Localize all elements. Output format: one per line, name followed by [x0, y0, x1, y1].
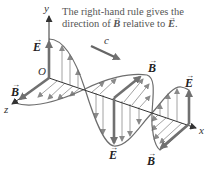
b-label-right: →B — [147, 155, 155, 167]
origin-label: O — [38, 66, 46, 77]
x-axis-label: x — [199, 125, 204, 136]
caption-line-1: The right-hand rule gives the — [62, 6, 210, 18]
z-axis-label: z — [4, 104, 8, 115]
b-field-arrows-third — [152, 115, 182, 143]
e-label-left: →E — [33, 41, 41, 53]
caption-line-2: direction of →B relative to →E. — [62, 18, 210, 30]
e-field-arrows-first — [62, 46, 78, 87]
right-hand-rule-caption: The right-hand rule gives the direction … — [62, 6, 210, 30]
b-vector-thick-left — [20, 78, 49, 99]
b-vector-thick-right — [161, 124, 189, 148]
x-axis — [49, 78, 196, 128]
wave-speed-label: c — [104, 35, 109, 46]
y-axis-label: y — [44, 3, 49, 14]
b-label-middle: →B — [148, 62, 156, 74]
caption-e-vector: →E — [168, 18, 175, 29]
b-field-curve — [15, 74, 189, 150]
e-label-right: →E — [185, 77, 193, 89]
b-label-left: →B — [11, 86, 19, 98]
propagation-arrow-icon — [91, 46, 119, 59]
caption-b-vector: →B — [113, 18, 120, 29]
b-field-arrows-first — [38, 81, 80, 99]
e-label-middle: →E — [109, 149, 117, 161]
